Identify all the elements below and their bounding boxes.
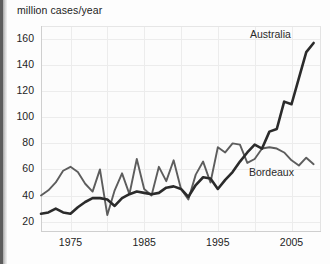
series-label-bordeaux: Bordeaux xyxy=(249,166,294,178)
line-series-australia xyxy=(41,43,314,214)
chart-root: million cases/year 20406080100120140160 … xyxy=(0,0,330,264)
series-label-australia: Australia xyxy=(250,28,291,40)
